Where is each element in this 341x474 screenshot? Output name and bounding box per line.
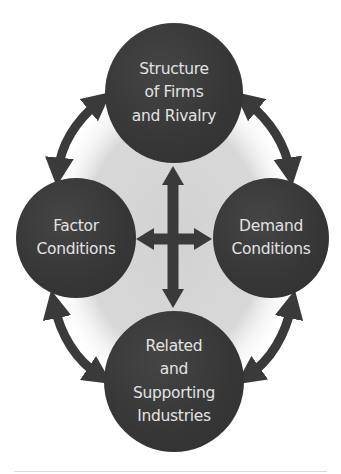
node-label-line: of Firms — [145, 81, 204, 105]
node-related-and-supporting-industries: Related and Supporting Industries — [104, 311, 244, 452]
node-label-line: Demand — [239, 215, 303, 239]
porters-diamond-diagram: Structure of Firms and Rivalry Factor Co… — [0, 0, 341, 474]
node-label-line: Supporting — [133, 382, 215, 406]
bottom-divider — [14, 471, 327, 472]
node-label-line: Related — [146, 335, 203, 359]
node-label-line: Factor — [53, 215, 99, 239]
node-structure-of-firms-and-rivalry: Structure of Firms and Rivalry — [105, 23, 243, 163]
node-demand-conditions: Demand Conditions — [213, 178, 329, 298]
node-label-line: Conditions — [36, 238, 115, 262]
node-label-line: Industries — [137, 405, 211, 429]
node-label-line: Structure — [139, 58, 208, 82]
node-factor-conditions: Factor Conditions — [16, 178, 136, 298]
node-label-line: and — [160, 358, 188, 382]
node-label-line: and Rivalry — [132, 105, 216, 129]
node-label-line: Conditions — [231, 238, 310, 262]
